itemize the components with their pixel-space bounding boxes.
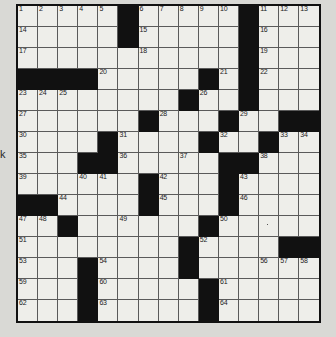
grid-open-cell[interactable]: 6 — [139, 6, 159, 27]
grid-open-cell[interactable]: 53 — [18, 258, 38, 279]
grid-open-cell[interactable] — [38, 27, 58, 48]
grid-open-cell[interactable] — [259, 237, 279, 258]
grid-open-cell[interactable] — [98, 48, 118, 69]
grid-open-cell[interactable] — [58, 300, 78, 321]
grid-open-cell[interactable] — [159, 258, 179, 279]
grid-open-cell[interactable] — [219, 258, 239, 279]
grid-open-cell[interactable]: 3 — [58, 6, 78, 27]
grid-open-cell[interactable] — [98, 237, 118, 258]
grid-open-cell[interactable] — [279, 90, 299, 111]
grid-open-cell[interactable]: 1 — [18, 6, 38, 27]
grid-open-cell[interactable] — [259, 174, 279, 195]
grid-open-cell[interactable] — [98, 27, 118, 48]
grid-open-cell[interactable]: 49 — [118, 216, 138, 237]
grid-open-cell[interactable] — [259, 90, 279, 111]
grid-open-cell[interactable]: 61 — [219, 279, 239, 300]
grid-open-cell[interactable] — [279, 300, 299, 321]
grid-open-cell[interactable] — [179, 279, 199, 300]
grid-open-cell[interactable] — [139, 216, 159, 237]
grid-open-cell[interactable] — [159, 132, 179, 153]
grid-open-cell[interactable] — [299, 195, 319, 216]
grid-open-cell[interactable] — [38, 258, 58, 279]
grid-open-cell[interactable]: 37 — [179, 153, 199, 174]
grid-open-cell[interactable]: 24 — [38, 90, 58, 111]
grid-open-cell[interactable]: 26 — [199, 90, 219, 111]
grid-open-cell[interactable] — [279, 216, 299, 237]
grid-open-cell[interactable]: 7 — [159, 6, 179, 27]
grid-open-cell[interactable] — [179, 195, 199, 216]
grid-open-cell[interactable] — [199, 153, 219, 174]
grid-open-cell[interactable] — [199, 258, 219, 279]
grid-open-cell[interactable] — [179, 132, 199, 153]
grid-open-cell[interactable] — [139, 132, 159, 153]
grid-open-cell[interactable] — [299, 174, 319, 195]
grid-open-cell[interactable]: 39 — [18, 174, 38, 195]
grid-open-cell[interactable] — [239, 132, 259, 153]
grid-open-cell[interactable]: 47 — [18, 216, 38, 237]
grid-open-cell[interactable] — [58, 27, 78, 48]
grid-open-cell[interactable]: 31 — [118, 132, 138, 153]
grid-open-cell[interactable]: 35 — [18, 153, 38, 174]
grid-open-cell[interactable] — [299, 90, 319, 111]
grid-open-cell[interactable]: 58 — [299, 258, 319, 279]
grid-open-cell[interactable] — [299, 216, 319, 237]
grid-open-cell[interactable] — [139, 258, 159, 279]
grid-open-cell[interactable]: 63 — [98, 300, 118, 321]
grid-open-cell[interactable]: 5 — [98, 6, 118, 27]
grid-open-cell[interactable]: 20 — [98, 69, 118, 90]
grid-open-cell[interactable] — [38, 174, 58, 195]
grid-open-cell[interactable] — [159, 153, 179, 174]
grid-open-cell[interactable] — [159, 48, 179, 69]
grid-open-cell[interactable] — [259, 279, 279, 300]
grid-open-cell[interactable] — [159, 237, 179, 258]
grid-open-cell[interactable] — [259, 111, 279, 132]
grid-open-cell[interactable]: 54 — [98, 258, 118, 279]
grid-open-cell[interactable] — [259, 216, 279, 237]
grid-open-cell[interactable] — [239, 279, 259, 300]
grid-open-cell[interactable] — [78, 111, 98, 132]
grid-open-cell[interactable]: 12 — [279, 6, 299, 27]
grid-open-cell[interactable]: 45 — [159, 195, 179, 216]
grid-open-cell[interactable] — [38, 111, 58, 132]
grid-open-cell[interactable] — [118, 90, 138, 111]
grid-open-cell[interactable]: 25 — [58, 90, 78, 111]
grid-open-cell[interactable] — [159, 300, 179, 321]
grid-open-cell[interactable] — [118, 300, 138, 321]
grid-open-cell[interactable] — [58, 132, 78, 153]
grid-open-cell[interactable] — [139, 153, 159, 174]
grid-open-cell[interactable] — [299, 279, 319, 300]
grid-open-cell[interactable]: 33 — [279, 132, 299, 153]
crossword-grid[interactable]: 1234567891011121314151617181920212223242… — [16, 4, 321, 323]
grid-open-cell[interactable] — [38, 237, 58, 258]
grid-open-cell[interactable]: 14 — [18, 27, 38, 48]
grid-open-cell[interactable] — [118, 48, 138, 69]
grid-open-cell[interactable] — [279, 279, 299, 300]
grid-open-cell[interactable]: 43 — [239, 174, 259, 195]
grid-open-cell[interactable]: 36 — [118, 153, 138, 174]
grid-open-cell[interactable] — [179, 48, 199, 69]
grid-open-cell[interactable]: 57 — [279, 258, 299, 279]
grid-open-cell[interactable] — [78, 27, 98, 48]
grid-open-cell[interactable] — [299, 153, 319, 174]
grid-open-cell[interactable] — [279, 27, 299, 48]
grid-open-cell[interactable] — [179, 69, 199, 90]
grid-open-cell[interactable]: 42 — [159, 174, 179, 195]
grid-open-cell[interactable]: 27 — [18, 111, 38, 132]
grid-open-cell[interactable] — [299, 300, 319, 321]
grid-open-cell[interactable] — [279, 69, 299, 90]
grid-open-cell[interactable] — [118, 69, 138, 90]
grid-open-cell[interactable]: 16 — [259, 27, 279, 48]
grid-open-cell[interactable]: 30 — [18, 132, 38, 153]
grid-open-cell[interactable] — [179, 216, 199, 237]
grid-open-cell[interactable] — [239, 300, 259, 321]
grid-open-cell[interactable]: 64 — [219, 300, 239, 321]
grid-open-cell[interactable]: 13 — [299, 6, 319, 27]
grid-open-cell[interactable] — [58, 279, 78, 300]
grid-open-cell[interactable]: 28 — [159, 111, 179, 132]
grid-open-cell[interactable]: 29 — [239, 111, 259, 132]
grid-open-cell[interactable] — [98, 111, 118, 132]
grid-open-cell[interactable]: 32 — [219, 132, 239, 153]
grid-open-cell[interactable] — [259, 300, 279, 321]
grid-open-cell[interactable] — [38, 279, 58, 300]
grid-open-cell[interactable] — [78, 237, 98, 258]
